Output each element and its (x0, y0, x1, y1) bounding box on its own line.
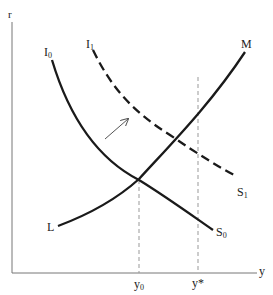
shift-arrow (105, 119, 128, 139)
s1-label: S1 (237, 185, 248, 200)
ystar-tick-label: y* (192, 276, 204, 290)
m-label: M (241, 37, 252, 51)
i1-label: I1 (86, 37, 94, 52)
s0-label: S0 (216, 225, 227, 240)
l-label: L (47, 220, 54, 234)
r-axis-label: r (8, 8, 12, 20)
i0-s0-curve (52, 60, 213, 230)
y-axis-label: y (259, 264, 265, 278)
i1-s1-curve (93, 50, 236, 176)
is-lm-diagram: r y I0 I1 S0 S1 L M y0 y* (0, 0, 273, 295)
i0-label: I0 (44, 45, 52, 60)
l-m-curve (58, 52, 245, 226)
y0-tick-label: y0 (134, 277, 144, 292)
